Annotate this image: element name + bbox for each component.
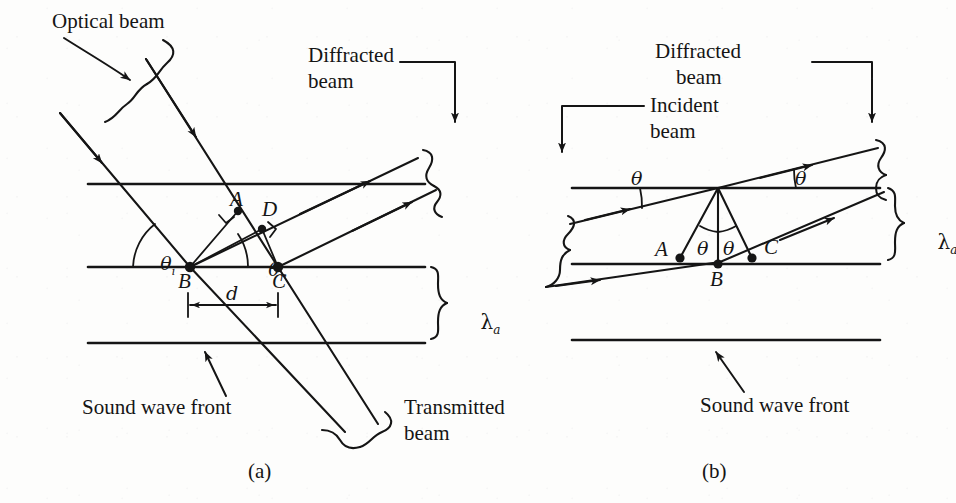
panel-caption-b: (b) <box>702 460 727 484</box>
label-incident-beam-line2: beam <box>650 120 695 144</box>
point-label-B-panel-a: B <box>178 270 191 294</box>
dot-C-panel-b <box>747 253 756 262</box>
label-transmitted-beam-line2: beam <box>404 422 449 446</box>
point-label-D-panel-a: D <box>262 198 277 222</box>
optical-beam-brace-lower <box>105 84 147 122</box>
panel-a-lambda-brace-upper <box>431 267 447 303</box>
transmitted-ray-upper <box>278 267 378 424</box>
lambda-a-symbol-b: λ <box>937 230 950 254</box>
dot-A-panel-b <box>675 253 684 262</box>
panel-b-lambda-brace-lower <box>888 223 904 260</box>
panel-a-diffracted-arrowheads <box>300 181 412 231</box>
leader-sound-wave-front-b <box>716 352 744 392</box>
panel-a-lambda-brace-lower <box>431 303 447 339</box>
leader-diffracted-beam-b <box>812 62 872 122</box>
arc-theta-upper-left <box>640 188 642 208</box>
panel-caption-a: (a) <box>248 460 271 484</box>
point-label-A-panel-b: A <box>655 238 668 262</box>
lambda-a-subscript-b: a <box>950 243 956 257</box>
angle-label-theta-lower-left: θ <box>697 238 708 259</box>
point-label-A-panel-a: A <box>230 188 243 212</box>
angle-label-theta-upper-left: θ <box>631 168 642 189</box>
diffracted-beam-brace-upper <box>423 150 434 186</box>
leader-sound-wave-front-a <box>205 352 226 396</box>
panel-b-incident-brace-upper <box>564 216 574 250</box>
transmitted-beam-brace-lower <box>322 430 360 448</box>
label-diffracted-beam-a-line2: beam <box>308 70 353 94</box>
dimension-label-lambda-a-panel-a: λa <box>455 289 500 360</box>
theta-r-subscript: r <box>280 271 285 284</box>
leader-optical-beam <box>64 38 130 80</box>
label-sound-wave-front-a: Sound wave front <box>82 396 231 420</box>
panel-b-lambda-brace-upper <box>888 188 904 223</box>
lambda-a-subscript: a <box>493 323 500 337</box>
theta-i-symbol: θ <box>160 252 171 274</box>
angle-label-theta-lower-right: θ <box>723 238 734 259</box>
label-incident-beam-line1: Incident <box>650 94 719 118</box>
lambda-a-symbol: λ <box>480 310 493 334</box>
right-angle-marker-A <box>219 215 234 223</box>
label-diffracted-beam-b-line1: Diffracted <box>655 40 741 64</box>
diffracted-ray-lower <box>720 192 884 262</box>
label-optical-beam: Optical beam <box>52 10 165 34</box>
arc-theta-lower-left <box>700 226 718 232</box>
theta-r-symbol: θ <box>268 258 279 280</box>
panel-b-sound-wave-fronts <box>572 188 880 340</box>
point-label-B-panel-b: B <box>710 268 723 292</box>
figure-canvas: Optical beam Diffracted beam A D B C θi … <box>0 0 956 503</box>
point-label-C-panel-b: C <box>764 236 778 260</box>
label-diffracted-beam-a-line1: Diffracted <box>308 44 394 68</box>
optical-beam-brace-upper <box>147 40 173 84</box>
panel-b-incident-brace-lower <box>546 250 570 287</box>
theta-i-subscript: i <box>172 265 176 278</box>
arc-theta-lower-right <box>718 226 736 232</box>
panel-a-diffracted-rays <box>190 158 436 267</box>
angle-label-theta-i: θi <box>136 232 175 300</box>
label-sound-wave-front-b: Sound wave front <box>700 394 849 418</box>
dimension-label-lambda-a-panel-b: λa <box>912 209 956 280</box>
dot-D-panel-a <box>258 225 266 233</box>
panel-b-diffracted-rays <box>718 148 884 262</box>
panel-a-incident-arrowheads <box>60 59 196 163</box>
dimension-label-d: d <box>226 283 238 304</box>
panel-b-lower-rays <box>612 258 680 278</box>
leader-diffracted-beam-a <box>400 62 455 122</box>
angle-label-theta-upper-right: θ <box>795 168 806 189</box>
transmitted-beam-brace-upper <box>360 412 391 447</box>
label-transmitted-beam-line1: Transmitted <box>404 396 505 420</box>
panel-b-diffracted-brace-upper <box>876 140 886 175</box>
label-diffracted-beam-b-line2: beam <box>676 66 721 90</box>
leader-incident-beam <box>562 106 644 152</box>
angle-label-theta-r: θr <box>244 238 285 306</box>
